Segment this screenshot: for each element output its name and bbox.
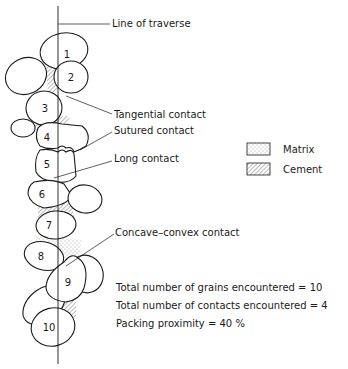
stat-total-contacts: Total number of contacts encountered = 4 (115, 300, 328, 311)
grain-label-8: 8 (38, 251, 44, 262)
grain-label-6: 6 (39, 189, 45, 200)
concave-convex-contact-label: Concave–convex contact (115, 227, 240, 238)
grain-label-3: 3 (42, 103, 48, 114)
sutured-contact-label: Sutured contact (114, 125, 194, 136)
grain-label-7: 7 (46, 220, 52, 231)
grain-label-5: 5 (44, 159, 50, 170)
grain-label-10: 10 (43, 322, 56, 333)
traverse-label: Line of traverse (112, 18, 191, 29)
grain-label-9: 9 (65, 277, 71, 288)
grain-label-4: 4 (44, 132, 50, 143)
grain-label-2: 2 (68, 72, 74, 83)
tangential-leader (66, 96, 112, 114)
long-contact-label: Long contact (114, 153, 179, 164)
stats: Total number of grains encountered = 10 … (115, 282, 328, 329)
stat-total-grains: Total number of grains encountered = 10 (115, 282, 322, 293)
grains (0, 29, 108, 351)
legend-cement-label: Cement (283, 164, 322, 175)
legend-cement-swatch (247, 163, 270, 175)
legend: Matrix Cement (247, 143, 322, 175)
grain-left-4 (11, 119, 35, 137)
legend-matrix-swatch (247, 143, 270, 155)
grain-label-1: 1 (64, 49, 70, 60)
grain-packing-diagram: 1 2 3 4 5 6 7 8 9 10 Line of traverse Ta… (0, 0, 348, 369)
stat-packing-proximity: Packing proximity = 40 % (116, 318, 245, 329)
tangential-contact-label: Tangential contact (113, 109, 206, 120)
legend-matrix-label: Matrix (283, 144, 315, 155)
